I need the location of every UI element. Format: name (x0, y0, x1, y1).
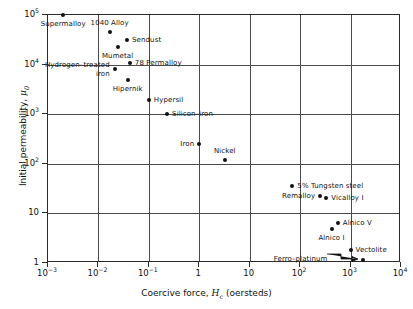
x-axis-title: Coercive force, Hc (oersteds) (0, 288, 413, 298)
y-tick-label-exponent: 5 (35, 7, 39, 14)
data-point-label: Ferro–platinum (274, 255, 328, 264)
data-point-label: Sendust (132, 35, 161, 44)
data-point-label: Hydrogen–treated iron (45, 61, 110, 78)
data-point-label: Nickel (214, 146, 236, 155)
chart-figure: Supermalloy1040 AlloySendustMumetal78 Pe… (0, 0, 413, 309)
y-axis-title-subscript: 0 (23, 86, 31, 90)
x-tick-label-exponent: −1 (149, 266, 158, 273)
x-tick-label-exponent: 3 (353, 266, 357, 273)
data-point-label: Alnico V (343, 218, 372, 227)
data-point-label: Silicon–iron (172, 110, 213, 119)
data-point-label: Supermalloy (41, 20, 86, 29)
data-point-label: Mumetal (102, 52, 133, 61)
x-tick-label-base: 10 (342, 268, 353, 278)
gridline-vertical (300, 15, 301, 261)
x-tick-label: 10−3 (37, 268, 57, 278)
x-tick-label-base: 10 (37, 268, 48, 278)
x-tick-label: 10−1 (138, 268, 158, 278)
x-tick-label-exponent: 4 (403, 266, 407, 273)
gridline-horizontal (48, 164, 399, 165)
y-tick-mark (42, 163, 47, 164)
y-tick-label-exponent: 4 (35, 57, 39, 64)
x-tick-label-exponent: 2 (303, 266, 307, 273)
gridline-vertical (199, 15, 200, 261)
y-tick-mark (42, 262, 47, 263)
x-tick-label-base: 10 (292, 268, 303, 278)
data-point (108, 30, 112, 34)
gridline-vertical (250, 15, 251, 261)
x-tick-label: 102 (292, 268, 307, 278)
data-point (361, 258, 365, 262)
gridline-vertical (149, 15, 150, 261)
data-point-label: Vicalloy I (331, 194, 363, 203)
x-tick-mark (400, 262, 401, 267)
data-point-label: Remalloy (282, 192, 315, 201)
gridline-vertical (98, 15, 99, 261)
x-tick-label-base: 1 (196, 268, 201, 278)
x-tick-label: 103 (342, 268, 357, 278)
x-tick-label: 10−2 (88, 268, 108, 278)
gridline-horizontal (48, 114, 399, 115)
data-point (197, 142, 201, 146)
x-tick-label-exponent: −3 (48, 266, 57, 273)
y-tick-label-base: 10 (28, 207, 39, 217)
data-point-label: Vectolite (356, 246, 387, 255)
y-tick-mark (42, 113, 47, 114)
data-point-label: Hypersil (154, 96, 183, 105)
x-tick-mark (350, 262, 351, 267)
gridline-horizontal (48, 213, 399, 214)
data-point-label: 5% Tungsten steel (297, 182, 363, 191)
x-tick-label: 10 (243, 268, 254, 278)
data-point (223, 158, 227, 162)
y-tick-mark (42, 14, 47, 15)
x-tick-label-base: 10 (88, 268, 99, 278)
data-point (125, 38, 129, 42)
y-tick-mark (42, 64, 47, 65)
x-tick-mark (249, 262, 250, 267)
data-point (165, 112, 169, 116)
y-tick-label-base: 1 (34, 257, 39, 267)
data-point-label: 1040 Alloy (91, 19, 129, 28)
data-point-label: 78 Permalloy (135, 58, 182, 67)
data-point (324, 196, 328, 200)
x-tick-mark (198, 262, 199, 267)
data-point (318, 194, 322, 198)
y-tick-label: 1 (34, 257, 39, 267)
data-point (147, 98, 151, 102)
data-point (126, 78, 130, 82)
y-tick-mark (42, 212, 47, 213)
data-point (349, 248, 353, 252)
x-tick-label: 104 (393, 268, 408, 278)
data-point-label: Iron (180, 140, 194, 149)
data-point-label: Alnico I (318, 234, 344, 243)
x-tick-label-base: 10 (138, 268, 149, 278)
y-axis-title: Initial permeability, μ0 (18, 12, 28, 260)
data-point (116, 45, 120, 49)
x-tick-mark (299, 262, 300, 267)
y-axis-title-prefix: Initial permeability, (18, 96, 28, 186)
x-axis-title-prefix: Coercive force, (141, 288, 211, 298)
data-point (61, 13, 65, 17)
x-tick-label: 1 (196, 268, 201, 278)
y-tick-label: 10 (28, 207, 39, 217)
x-axis-title-suffix: (oersteds) (223, 288, 272, 298)
x-tick-label-base: 10 (393, 268, 404, 278)
x-tick-label-exponent: −2 (98, 266, 107, 273)
y-axis-title-symbol: μ (18, 90, 28, 96)
data-point (336, 221, 340, 225)
data-point (330, 227, 334, 231)
data-point-label: Hipernik (113, 85, 143, 94)
data-point (128, 61, 132, 65)
plot-area: Supermalloy1040 AlloySendustMumetal78 Pe… (47, 14, 400, 262)
y-tick-label-exponent: 3 (35, 106, 39, 113)
y-tick-label-exponent: 2 (35, 156, 39, 163)
data-point (290, 184, 294, 188)
x-tick-label-base: 10 (243, 268, 254, 278)
data-point (113, 67, 117, 71)
